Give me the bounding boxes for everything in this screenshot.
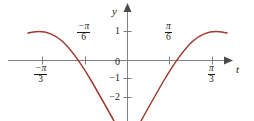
y-tick-label-1: 1 [108, 26, 120, 36]
plot-canvas [0, 0, 254, 121]
t-axis-label: t [236, 64, 239, 75]
fraction-denominator: 3 [34, 75, 47, 85]
y-tick-label-0: 0 [108, 57, 120, 67]
x-tick-label-pi-3: π 3 [208, 64, 215, 85]
fraction-denominator: 6 [77, 33, 90, 43]
fraction-pi-3: π 3 [208, 64, 215, 84]
fraction-neg-pi-3: −π 3 [34, 64, 47, 84]
graph-figure: y t 1 0 −1 −2 −π 3 −π 6 π 6 π 3 [0, 0, 254, 121]
t-axis-arrowhead [224, 57, 233, 65]
fraction-denominator: 6 [165, 33, 172, 43]
fraction-neg-pi-6: −π 6 [77, 22, 90, 42]
y-axis-label: y [112, 6, 117, 17]
y-axis-arrowhead [124, 3, 132, 12]
fraction-pi-6: π 6 [165, 22, 172, 42]
x-tick-label-neg-pi-6: −π 6 [77, 22, 90, 43]
x-tick-label-neg-pi-3: −π 3 [34, 64, 47, 85]
x-tick-label-pi-6: π 6 [165, 22, 172, 43]
y-tick-label-neg-1: −1 [104, 73, 120, 83]
y-tick-label-neg-2: −2 [104, 92, 120, 102]
fraction-denominator: 3 [208, 75, 215, 85]
